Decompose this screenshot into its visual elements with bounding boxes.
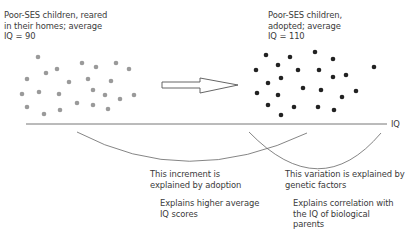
annotation-line: This increment is (150, 169, 241, 180)
variation-sub-annotation: Explains correlation with the IQ of biol… (293, 198, 394, 230)
data-dot (106, 107, 111, 112)
annotation-line: explained by adoption (150, 180, 241, 191)
data-dot (292, 105, 297, 110)
data-dot (331, 75, 336, 80)
arrow-right-icon (162, 78, 238, 93)
data-dot (313, 50, 318, 55)
data-dot (317, 68, 322, 73)
right-title-line: adopted; average (268, 21, 342, 32)
annotation-line: Explains higher average (160, 198, 259, 209)
annotation-line: the IQ of biological (293, 209, 394, 220)
left-group-title: Poor-SES children, reared in their homes… (4, 10, 107, 42)
annotation-line: genetic factors (285, 180, 405, 191)
data-dot (86, 77, 91, 82)
data-dot (91, 88, 96, 93)
data-dot (57, 92, 62, 97)
data-dot (266, 81, 271, 86)
data-dot (276, 63, 281, 68)
data-dot (118, 97, 123, 102)
axis-label: IQ (391, 119, 400, 130)
data-dot (254, 68, 259, 73)
data-dot (94, 65, 99, 70)
annotation-line: Explains correlation with (293, 198, 394, 209)
data-dot (279, 113, 284, 118)
data-dot (301, 86, 306, 91)
data-dot (114, 61, 119, 66)
variation-annotation: This variation is explained by genetic f… (285, 169, 405, 190)
data-dot (25, 105, 30, 110)
annotation-line: parents (293, 219, 394, 230)
data-dot (276, 93, 281, 98)
data-dot (44, 71, 49, 76)
data-dot (288, 55, 293, 60)
data-dot (20, 92, 25, 97)
data-dot (75, 101, 80, 106)
annotation-line: This variation is explained by (285, 169, 405, 180)
annotation-line: IQ scores (160, 209, 259, 220)
data-dot (36, 55, 41, 60)
left-title-line: IQ = 90 (4, 31, 107, 42)
data-dot (354, 89, 359, 94)
data-dot (340, 95, 345, 100)
data-dot (37, 90, 42, 95)
left-title-line: Poor-SES children, reared (4, 10, 107, 21)
data-dot (91, 103, 96, 108)
data-dot (25, 77, 30, 82)
data-dot (296, 68, 301, 73)
data-dot (42, 112, 47, 117)
variation-bracket-curve (249, 132, 381, 169)
data-dot (255, 91, 260, 96)
right-group-title: Poor-SES children, adopted; average IQ =… (268, 10, 342, 42)
data-dot (372, 65, 377, 70)
left-dot-cluster (20, 55, 137, 117)
data-dot (332, 108, 337, 113)
left-title-line: in their homes; average (4, 21, 107, 32)
data-dot (67, 80, 72, 85)
data-dot (344, 73, 349, 78)
right-title-line: Poor-SES children, (268, 10, 342, 21)
right-dot-cluster (254, 50, 377, 118)
data-dot (331, 57, 336, 62)
data-dot (58, 108, 63, 113)
increment-annotation: This increment is explained by adoption (150, 169, 241, 190)
data-dot (109, 79, 114, 84)
data-dot (279, 76, 284, 81)
data-dot (316, 105, 321, 110)
increment-sub-annotation: Explains higher average IQ scores (160, 198, 259, 219)
data-dot (319, 88, 324, 93)
data-dot (132, 93, 137, 98)
data-dot (55, 67, 60, 72)
right-title-line: IQ = 110 (268, 31, 342, 42)
data-dot (264, 53, 269, 58)
data-dot (266, 103, 271, 108)
data-dot (80, 61, 85, 66)
data-dot (127, 67, 132, 72)
data-dot (103, 93, 108, 98)
increment-bracket-curve (77, 132, 307, 161)
